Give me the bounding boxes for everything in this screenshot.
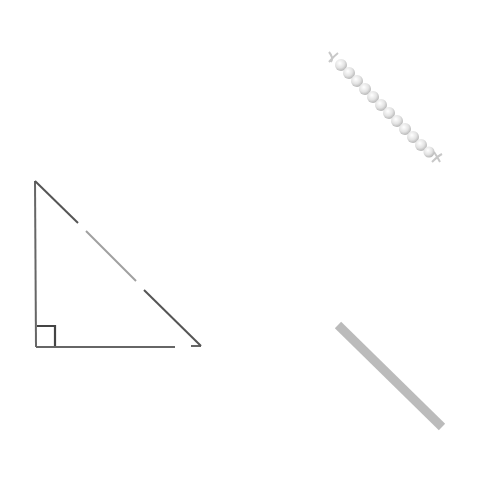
hypotenuse-segment-1 (35, 181, 78, 223)
right-triangle (35, 181, 201, 347)
gray-bar (338, 325, 442, 427)
pearl-chain (329, 52, 442, 162)
hypotenuse-segment-3 (144, 290, 201, 346)
right-angle-marker (37, 326, 55, 346)
hypotenuse-segment-2 (86, 231, 136, 281)
triangle-left-side (35, 181, 36, 347)
diagram-canvas (0, 0, 494, 492)
